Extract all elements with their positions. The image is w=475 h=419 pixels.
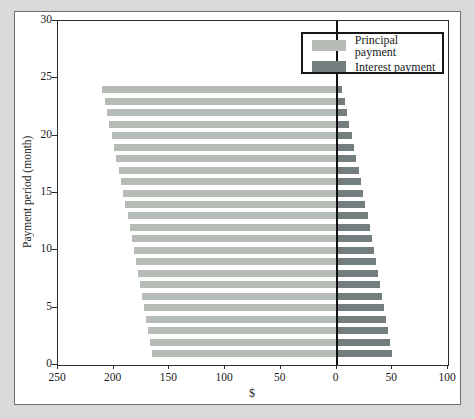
- interest-bar-month-16: [337, 178, 361, 185]
- y-tick-mark-0: [52, 364, 57, 365]
- legend-label-interest: Interest payment: [355, 61, 435, 73]
- interest-bar-month-23: [337, 98, 345, 105]
- x-tick-label-150: 150: [148, 371, 188, 383]
- x-tick-mark-50: [391, 365, 392, 369]
- interest-bar-month-11: [337, 235, 372, 242]
- interest-bar-month-14: [337, 201, 366, 208]
- principal-bar-month-14: [125, 201, 336, 208]
- principal-bar-month-2: [150, 339, 336, 346]
- x-tick-label-100: 100: [204, 371, 244, 383]
- interest-bar-month-1: [337, 350, 393, 357]
- interest-swatch: [312, 61, 346, 72]
- principal-bar-month-4: [146, 316, 336, 323]
- x-tick-mark-50: [280, 365, 281, 369]
- principal-bar-month-1: [152, 350, 336, 357]
- x-tick-mark-100: [224, 365, 225, 369]
- interest-bar-month-7: [337, 281, 381, 288]
- principal-bar-month-6: [142, 293, 336, 300]
- principal-bar-month-19: [114, 144, 336, 151]
- principal-bar-month-16: [121, 178, 337, 185]
- legend: Principal payment Interest payment: [301, 32, 444, 74]
- x-tick-label-50: 50: [260, 371, 300, 383]
- x-tick-label-0: 0: [316, 371, 356, 383]
- principal-bar-month-17: [119, 167, 337, 174]
- interest-bar-month-13: [337, 212, 368, 219]
- principal-bar-month-5: [144, 304, 336, 311]
- interest-bar-month-18: [337, 155, 357, 162]
- principal-bar-month-11: [132, 235, 337, 242]
- principal-bar-month-13: [128, 212, 337, 219]
- principal-bar-month-21: [109, 121, 336, 128]
- interest-bar-month-12: [337, 224, 370, 231]
- principal-bar-month-9: [136, 258, 336, 265]
- y-tick-mark-15: [52, 192, 57, 193]
- interest-bar-month-19: [337, 144, 355, 151]
- y-tick-mark-20: [52, 135, 57, 136]
- principal-bar-month-8: [138, 270, 336, 277]
- interest-bar-month-22: [337, 109, 347, 116]
- y-tick-mark-30: [52, 20, 57, 21]
- legend-item-interest: Interest payment: [312, 61, 442, 73]
- x-tick-mark-250: [57, 365, 58, 369]
- y-axis-title: Payment period (month): [21, 20, 33, 364]
- interest-bar-month-21: [337, 121, 350, 128]
- figure-page: Principal payment Interest payment 25020…: [0, 0, 475, 419]
- x-tick-mark-100: [447, 365, 448, 369]
- y-tick-mark-25: [52, 77, 57, 78]
- legend-item-principal: Principal payment: [312, 34, 442, 58]
- principal-bar-month-22: [107, 109, 337, 116]
- y-tick-mark-10: [52, 249, 57, 250]
- x-tick-mark-150: [168, 365, 169, 369]
- interest-bar-month-9: [337, 258, 377, 265]
- x-tick-mark-200: [113, 365, 114, 369]
- x-tick-label-50: 50: [371, 371, 411, 383]
- x-axis-title: $: [57, 386, 447, 401]
- interest-bar-month-20: [337, 132, 352, 139]
- principal-bar-month-18: [116, 155, 336, 162]
- principal-bar-month-10: [134, 247, 336, 254]
- interest-bar-month-8: [337, 270, 379, 277]
- principal-bar-month-24: [102, 86, 336, 93]
- principal-bar-month-7: [140, 281, 336, 288]
- interest-bar-month-15: [337, 190, 364, 197]
- interest-bar-month-6: [337, 293, 383, 300]
- interest-bar-month-5: [337, 304, 385, 311]
- interest-bar-month-3: [337, 327, 389, 334]
- y-tick-mark-5: [52, 307, 57, 308]
- principal-bar-month-12: [130, 224, 337, 231]
- interest-bar-month-2: [337, 339, 391, 346]
- plot-area: Principal payment Interest payment: [57, 20, 449, 366]
- legend-label-principal: Principal payment: [355, 34, 442, 58]
- principal-bar-month-23: [105, 98, 337, 105]
- interest-bar-month-4: [337, 316, 387, 323]
- interest-bar-month-17: [337, 167, 359, 174]
- x-tick-label-250: 250: [37, 371, 77, 383]
- principal-bar-month-15: [123, 190, 336, 197]
- interest-bar-month-10: [337, 247, 375, 254]
- principal-bar-month-20: [112, 132, 337, 139]
- x-tick-label-100: 100: [427, 371, 467, 383]
- x-tick-label-200: 200: [93, 371, 133, 383]
- principal-swatch: [312, 40, 346, 51]
- principal-bar-month-3: [148, 327, 336, 334]
- x-tick-mark-0: [336, 365, 337, 369]
